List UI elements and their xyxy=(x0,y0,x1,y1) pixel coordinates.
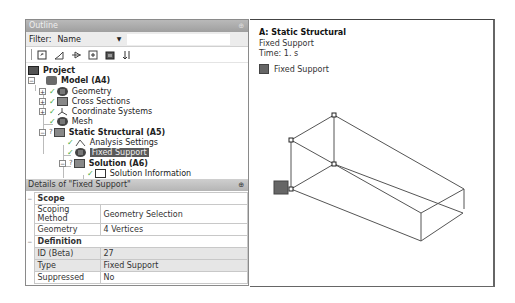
fixed-support-marker xyxy=(274,181,288,194)
details-row[interactable]: Suppressed No xyxy=(26,272,248,284)
project-icon xyxy=(28,66,39,75)
outline-title: Outline xyxy=(29,21,58,30)
sort-icon[interactable] xyxy=(122,50,132,60)
tree-item-mesh[interactable]: ✓ Mesh xyxy=(49,116,93,126)
outline-titlebar: Outline ⊕ xyxy=(26,20,248,32)
details-table: − Scope Scoping Method Geometry Selectio… xyxy=(26,192,248,284)
details-row[interactable]: Type Fixed Support xyxy=(26,260,248,272)
details-row[interactable]: Geometry 4 Vertices xyxy=(26,224,248,236)
expand-icon[interactable] xyxy=(54,50,64,60)
tree-item-solution[interactable]: − ? Solution (A6) xyxy=(59,158,148,168)
collapse-icon[interactable]: − xyxy=(26,236,34,248)
filter-dropdown[interactable]: Name ▼ xyxy=(57,35,127,44)
outline-tree: Project − Model (A4) + ✓ Geometry + ✓ Cr… xyxy=(26,63,248,186)
collapse-icon[interactable]: − xyxy=(39,129,46,136)
check-icon: ✓ xyxy=(49,117,56,126)
group-definition[interactable]: − Definition xyxy=(26,236,248,248)
tree-item-model[interactable]: − Model (A4) xyxy=(28,75,110,85)
geometry-viewport[interactable]: A: Static Structural Fixed Support Time:… xyxy=(250,19,495,287)
check-icon: ✓ xyxy=(49,107,56,116)
plus-box-icon[interactable] xyxy=(88,50,98,60)
collapse-icon[interactable]: − xyxy=(26,193,34,205)
tree-item-solution-information[interactable]: ✓ Solution Information xyxy=(87,168,191,178)
question-status-icon: ? xyxy=(69,159,73,167)
edit-icon[interactable] xyxy=(37,50,47,60)
outline-toolbar xyxy=(26,47,248,63)
model-icon xyxy=(46,76,57,85)
static-structural-icon xyxy=(54,128,65,137)
fixed-support-icon xyxy=(75,148,86,157)
details-row[interactable]: Scoping Method Geometry Selection xyxy=(26,205,248,224)
pin-icon[interactable]: ⊕ xyxy=(238,20,244,32)
tree-item-project[interactable]: Project xyxy=(28,65,75,75)
check-icon: ✓ xyxy=(49,97,56,106)
expand-icon[interactable]: + xyxy=(39,88,46,95)
check-icon: ✓ xyxy=(49,87,56,96)
toolbar-grip xyxy=(31,49,32,60)
expand-icon[interactable]: + xyxy=(39,98,46,105)
filter-label: Filter: xyxy=(29,35,51,44)
group-scope[interactable]: − Scope xyxy=(26,193,248,205)
filter-bar: Filter: Name ▼ xyxy=(26,32,248,47)
collapse-icon[interactable]: − xyxy=(28,77,35,84)
solution-information-icon xyxy=(95,169,106,178)
coordinate-systems-icon xyxy=(57,107,68,116)
details-row[interactable]: ID (Beta) 27 xyxy=(26,248,248,260)
selected-item-label: Fixed Support xyxy=(90,148,149,157)
analysis-settings-icon xyxy=(75,138,86,147)
filter-value: Name xyxy=(57,35,81,44)
check-icon: ✓ xyxy=(67,148,74,157)
outline-panel: Outline ⊕ Filter: Name ▼ xyxy=(25,19,249,286)
folder-icon[interactable] xyxy=(105,50,115,60)
cross-sections-icon xyxy=(57,97,68,106)
tree-item-coordinate-systems[interactable]: + ✓ Coordinate Systems xyxy=(39,106,152,116)
details-title: Details of "Fixed Support" xyxy=(28,180,131,189)
filter-search-input[interactable] xyxy=(127,34,230,45)
tree-item-cross-sections[interactable]: + ✓ Cross Sections xyxy=(39,96,130,106)
chevron-down-icon: ▼ xyxy=(117,35,122,44)
check-icon: ✓ xyxy=(87,169,94,178)
wireframe-model xyxy=(250,20,495,288)
tree-item-static-structural[interactable]: − ? Static Structural (A5) xyxy=(39,127,165,137)
tree-item-analysis-settings[interactable]: ✓ Analysis Settings xyxy=(67,137,158,147)
tree-item-fixed-support[interactable]: ✓ Fixed Support xyxy=(67,147,149,157)
collapse-icon[interactable]: − xyxy=(59,160,66,167)
solution-icon xyxy=(74,159,85,168)
geometry-icon xyxy=(57,87,68,96)
check-icon: ✓ xyxy=(67,138,74,147)
mesh-icon xyxy=(57,117,68,126)
expand-icon[interactable]: + xyxy=(39,108,46,115)
tree-item-geometry[interactable]: + ✓ Geometry xyxy=(39,86,112,96)
pin-icon[interactable]: ⊕ xyxy=(238,179,244,191)
question-status-icon: ? xyxy=(49,128,53,136)
link-icon[interactable] xyxy=(71,50,81,60)
details-titlebar: Details of "Fixed Support" ⊕ xyxy=(26,179,248,191)
